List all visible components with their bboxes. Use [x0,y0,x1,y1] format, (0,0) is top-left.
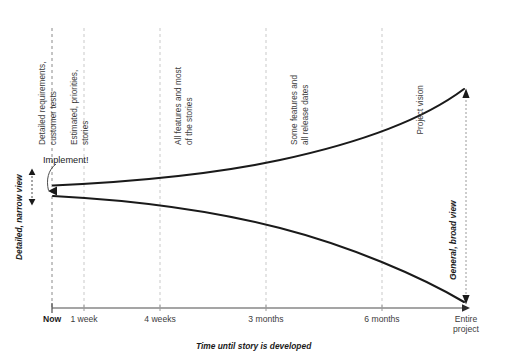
x-tick-1-week: 1 week [58,314,110,324]
right-axis-caption: General, broad view [448,200,458,280]
milestone-label-project-vision: Project vision [416,85,427,134]
lower-boundary-curve [53,196,464,302]
diagram-canvas [0,0,506,362]
right-span-arrow [462,89,469,305]
cone-of-uncertainty-diagram: Detailed requirements, customer tests Es… [0,0,506,362]
left-axis-caption: Detailed, narrow view [14,174,24,260]
x-axis [52,303,470,313]
milestone-label-all-features: All features and most of the stories [174,67,195,145]
x-tick-6-months: 6 months [353,314,411,324]
milestone-guide-lines [52,28,382,308]
milestone-label-detailed-requirements: Detailed requirements, customer tests [38,62,59,145]
implement-callout: Implement! [43,155,88,165]
x-tick-3-months: 3 months [237,314,295,324]
upper-boundary-curve [53,89,464,186]
left-span-arrow [29,169,36,206]
milestone-label-estimated-priorities: Estimated, priorities, stories [70,70,91,145]
x-axis-caption: Time until story is developed [196,341,311,351]
cone-apex-arrow [48,187,57,196]
milestone-label-some-features: Some features and all release dates [290,75,311,145]
x-tick-entire-project: Entire project [440,314,492,334]
x-tick-4-weeks: 4 weeks [133,314,187,324]
